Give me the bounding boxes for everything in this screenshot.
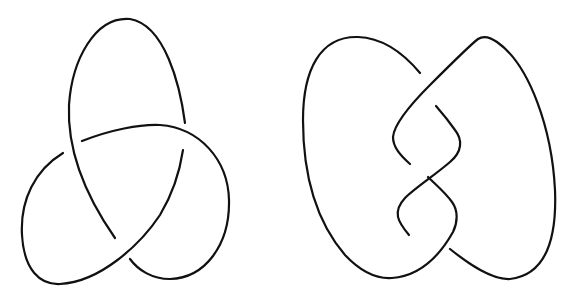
figure-eight-knot-drawing	[290, 0, 579, 297]
trefoil-knot-drawing	[0, 0, 290, 297]
trefoil-knot: Trefoil knot	[0, 0, 290, 297]
figure-eight-strand-right-loop	[398, 106, 461, 235]
figure-eight-strand-left-loop	[303, 37, 457, 278]
figure-eight-knot: Figure-eight knot	[290, 0, 579, 297]
trefoil-strand-right-lobe	[82, 125, 229, 279]
figure-eight-strand-outer	[393, 37, 555, 279]
knot-diagram-figure: Trefoil knot Figure-eight knot	[0, 0, 579, 297]
